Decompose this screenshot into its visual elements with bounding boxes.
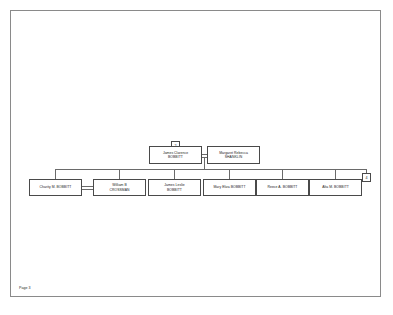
child-3-line-2: BOBBITT xyxy=(167,188,182,192)
child-1-line-1: Charity M. BOBBITT xyxy=(40,185,72,189)
child-2-line-2: CROSSMAN xyxy=(110,188,130,192)
child-6-line-1: Alta M. BOBBITT xyxy=(322,185,349,189)
child-node-2-spouse[interactable]: William B CROSSMAN xyxy=(93,179,146,196)
connector-marriage-upper xyxy=(202,154,207,155)
parent-node-mother[interactable]: Margaret Rebecca SHANKLIN xyxy=(207,146,260,164)
child-node-5[interactable]: Reece A. BOBBITT xyxy=(256,179,309,196)
parent-node-father[interactable]: James Clarence BOBBITT xyxy=(149,146,202,164)
connector-child-drop-2 xyxy=(119,169,120,179)
child-5-line-1: Reece A. BOBBITT xyxy=(267,185,297,189)
connector-child-drop-5 xyxy=(282,169,283,179)
connector-child-drop-6 xyxy=(335,169,336,179)
connector-child-drop-4 xyxy=(229,169,230,179)
parent-father-line-2: BOBBITT xyxy=(168,155,183,159)
child-node-1[interactable]: Charity M. BOBBITT xyxy=(29,179,82,196)
connector-child-drop-3 xyxy=(174,169,175,179)
child-node-6[interactable]: Alta M. BOBBITT xyxy=(309,179,362,196)
continuation-reference-tag[interactable]: 4 xyxy=(362,173,371,182)
connector-children-drop xyxy=(204,157,205,169)
connector-child-marriage-lower xyxy=(82,189,93,190)
child-node-3[interactable]: James Leslie BOBBITT xyxy=(148,179,201,196)
parent-mother-line-2: SHANKLIN xyxy=(225,155,242,159)
child-4-line-1: Mary Eliza BOBBITT xyxy=(213,185,245,189)
page-footer-label: Page 3 xyxy=(19,286,30,290)
connector-child-marriage-upper xyxy=(82,186,93,187)
connector-sibling-bar xyxy=(55,169,366,170)
child-node-4[interactable]: Mary Eliza BOBBITT xyxy=(203,179,256,196)
continuation-reference-number: 4 xyxy=(366,176,368,180)
connector-child-drop-1 xyxy=(55,169,56,179)
chart-page: 2 James Clarence BOBBITT Margaret Rebecc… xyxy=(10,10,381,297)
